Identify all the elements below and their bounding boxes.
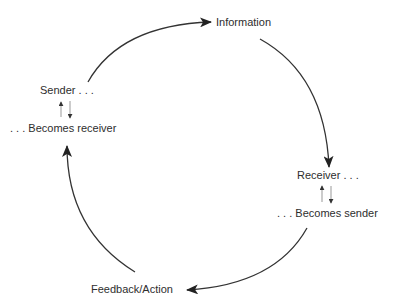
- diagram-arrows: [0, 0, 396, 308]
- arc-sender-to-feedback: [187, 228, 307, 290]
- label-becomes-receiver: . . . Becomes receiver: [10, 122, 116, 135]
- sender-swap-arrows: [61, 101, 70, 118]
- label-receiver: Receiver . . .: [297, 169, 359, 182]
- label-becomes-sender: . . . Becomes sender: [277, 207, 378, 220]
- communication-cycle-diagram: Information Receiver . . . . . . Becomes…: [0, 0, 396, 308]
- label-sender: Sender . . .: [40, 84, 94, 97]
- label-feedback-action: Feedback/Action: [91, 283, 173, 296]
- receiver-swap-arrows: [322, 186, 331, 203]
- arc-information-to-receiver: [260, 39, 329, 167]
- arc-feedback-to-receiver: [67, 146, 135, 272]
- label-information: Information: [216, 16, 271, 29]
- arc-sender-to-information: [88, 22, 211, 82]
